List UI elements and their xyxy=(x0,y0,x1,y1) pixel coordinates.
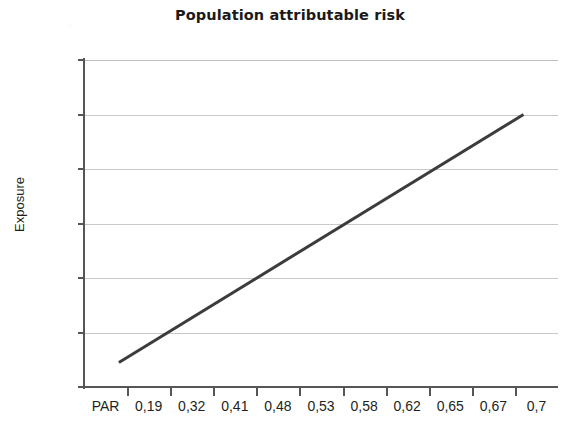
x-axis-tick xyxy=(429,388,431,396)
x-axis-tick-label: 0,7 xyxy=(506,398,566,414)
gridline xyxy=(84,60,558,61)
plot-area xyxy=(84,60,558,387)
x-axis-tick xyxy=(127,388,129,396)
x-axis-tick xyxy=(472,388,474,396)
y-axis-tick xyxy=(78,59,85,61)
y-axis-tick xyxy=(78,386,85,388)
chart-title: Population attributable risk xyxy=(0,7,580,23)
gridline xyxy=(84,169,558,170)
gridline xyxy=(84,333,558,334)
gridline xyxy=(84,224,558,225)
y-axis-tick xyxy=(78,223,85,225)
gridline xyxy=(84,278,558,279)
x-axis-line xyxy=(84,386,558,388)
x-axis-tick xyxy=(170,388,172,396)
y-axis-tick xyxy=(78,332,85,334)
population-attributable-risk-chart: Population attributable risk Exposure 00… xyxy=(0,0,580,425)
x-axis-tick xyxy=(515,388,517,396)
x-axis-tick xyxy=(343,388,345,396)
y-axis-title: Exposure xyxy=(12,145,27,265)
y-axis-tick xyxy=(78,114,85,116)
x-axis-tick xyxy=(213,388,215,396)
gridline xyxy=(84,115,558,116)
y-axis-tick xyxy=(78,168,85,170)
x-axis-tick xyxy=(386,388,388,396)
y-axis-tick xyxy=(78,277,85,279)
x-axis-tick xyxy=(299,388,301,396)
x-axis-tick xyxy=(256,388,258,396)
